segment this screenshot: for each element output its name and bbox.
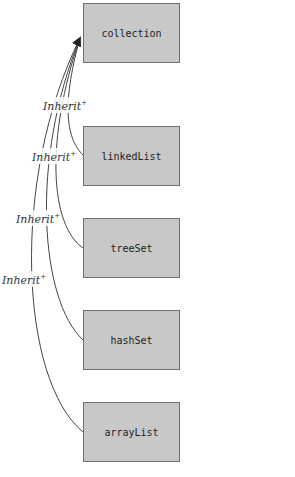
edge-label: Inherit+ (2, 271, 46, 287)
node-label: treeSet (110, 243, 152, 254)
node-label: linkedList (101, 151, 161, 162)
node-treeset[interactable]: treeSet (83, 218, 180, 278)
node-linkedlist[interactable]: linkedList (83, 126, 180, 186)
edge-hashset-collection (46, 38, 83, 340)
node-label: hashSet (110, 335, 152, 346)
node-arraylist[interactable]: arrayList (83, 402, 180, 462)
edge-label: Inherit+ (43, 97, 87, 113)
node-label: arrayList (104, 427, 158, 438)
node-hashset[interactable]: hashSet (83, 310, 180, 370)
node-label: collection (101, 28, 161, 39)
edge-label: Inherit+ (16, 210, 60, 226)
edge-label: Inherit+ (32, 148, 76, 164)
node-collection[interactable]: collection (83, 3, 180, 63)
